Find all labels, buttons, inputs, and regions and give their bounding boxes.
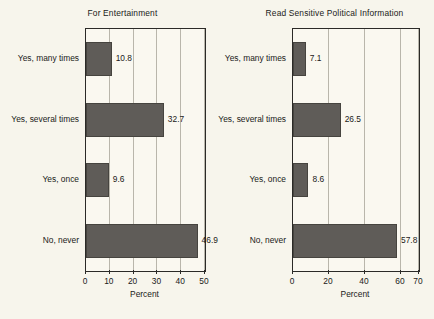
axis-tick-label: 30 xyxy=(152,276,161,286)
bar-row xyxy=(86,211,205,272)
category-label: No, never xyxy=(217,235,286,245)
chart-panel-for-entertainment: For Entertainment 10.8Yes, many times32.… xyxy=(0,0,217,319)
axis-tick xyxy=(400,270,401,274)
category-label: Yes, many times xyxy=(217,53,286,63)
axis-tick xyxy=(364,270,365,274)
chart-panel-read-sensitive-political-information: Read Sensitive Political Information 7.1… xyxy=(217,0,434,319)
bar[interactable] xyxy=(293,224,397,258)
axis-tick xyxy=(328,270,329,274)
panel-title: Read Sensitive Political Information xyxy=(217,8,434,18)
bar-value-label: 26.5 xyxy=(345,114,361,124)
axis-tick xyxy=(180,270,181,274)
bar[interactable] xyxy=(293,163,308,197)
axis-tick xyxy=(85,270,86,274)
bar[interactable] xyxy=(293,42,306,76)
bar-value-label: 8.6 xyxy=(312,174,324,184)
category-label: Yes, several times xyxy=(217,114,286,124)
category-label: Yes, several times xyxy=(0,114,79,124)
axis-tick-label: 50 xyxy=(199,276,208,286)
bar-value-label: 10.8 xyxy=(116,53,132,63)
bar-row xyxy=(86,150,205,211)
bar-value-label: 7.1 xyxy=(310,53,322,63)
axis-tick-label: 0 xyxy=(83,276,88,286)
bar[interactable] xyxy=(86,103,164,137)
plot-area xyxy=(85,28,206,272)
axis-tick-label: 10 xyxy=(104,276,113,286)
bar[interactable] xyxy=(86,163,109,197)
axis-tick xyxy=(204,270,205,274)
category-label: Yes, once xyxy=(0,174,79,184)
axis-tick-label: 20 xyxy=(323,276,332,286)
panel-title: For Entertainment xyxy=(0,8,217,18)
category-label: Yes, many times xyxy=(0,53,79,63)
axis-tick-label: 70 xyxy=(413,276,422,286)
axis-tick xyxy=(109,270,110,274)
axis-tick-label: 60 xyxy=(395,276,404,286)
x-axis-title: Percent xyxy=(130,289,159,299)
bar-value-label: 57.8 xyxy=(401,235,417,245)
axis-tick xyxy=(418,270,419,274)
bar-row xyxy=(86,90,205,151)
axis-tick-label: 0 xyxy=(290,276,295,286)
axis-tick xyxy=(133,270,134,274)
x-axis-title: Percent xyxy=(341,289,370,299)
bar[interactable] xyxy=(86,224,198,258)
axis-tick-label: 40 xyxy=(359,276,368,286)
bar-value-label: 46.9 xyxy=(202,235,218,245)
bar[interactable] xyxy=(293,103,341,137)
axis-tick-label: 20 xyxy=(128,276,137,286)
bar-value-label: 32.7 xyxy=(168,114,184,124)
bar-value-label: 9.6 xyxy=(113,174,125,184)
axis-tick-label: 40 xyxy=(176,276,185,286)
bar-row xyxy=(86,29,205,90)
dual-bar-chart-figure: For Entertainment 10.8Yes, many times32.… xyxy=(0,0,434,319)
category-label: Yes, once xyxy=(217,174,286,184)
axis-tick xyxy=(156,270,157,274)
bar[interactable] xyxy=(86,42,112,76)
category-label: No, never xyxy=(0,235,79,245)
axis-tick xyxy=(292,270,293,274)
